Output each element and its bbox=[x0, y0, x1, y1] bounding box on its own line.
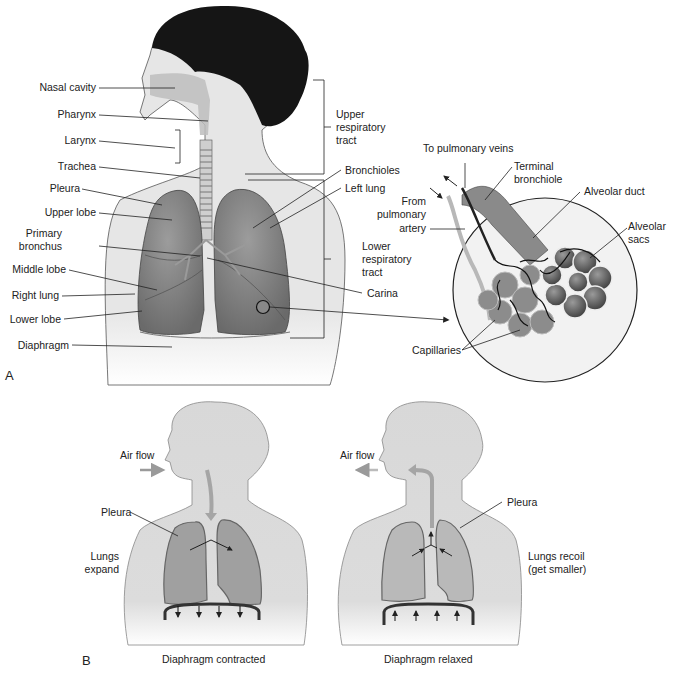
label-lower-tract-2: respiratory bbox=[362, 253, 412, 266]
label-bronchiole: bronchiole bbox=[514, 173, 562, 186]
label-lungs-recoil: Lungs recoil bbox=[528, 550, 585, 563]
label-bronchus: bronchus bbox=[19, 240, 62, 253]
label-carina: Carina bbox=[367, 287, 398, 300]
label-lower-tract-1: Lower bbox=[362, 240, 391, 253]
caption-diaphragm-relaxed: Diaphragm relaxed bbox=[384, 653, 473, 666]
label-capillaries: Capillaries bbox=[412, 344, 461, 357]
label-pleura: Pleura bbox=[50, 182, 80, 195]
alveoli-inset bbox=[430, 176, 637, 382]
label-middle-lobe: Middle lobe bbox=[12, 263, 66, 276]
magnified-region-marker bbox=[257, 301, 270, 314]
label-larynx: Larynx bbox=[64, 134, 96, 147]
label-get-smaller: (get smaller) bbox=[528, 563, 586, 576]
caption-diaphragm-contracted: Diaphragm contracted bbox=[162, 653, 265, 666]
label-airflow-out: Air flow bbox=[340, 449, 374, 462]
label-lungs: Lungs bbox=[90, 550, 119, 563]
label-lower-lobe: Lower lobe bbox=[10, 313, 61, 326]
label-pharynx: Pharynx bbox=[57, 108, 96, 121]
trachea bbox=[200, 140, 212, 240]
figure-b-right bbox=[338, 402, 521, 645]
label-to-pulmonary-veins: To pulmonary veins bbox=[423, 142, 513, 155]
label-alveolar-duct: Alveolar duct bbox=[584, 185, 645, 198]
label-upper-tract-1: Upper bbox=[336, 108, 365, 121]
label-lower-tract-3: tract bbox=[362, 266, 382, 279]
label-trachea: Trachea bbox=[58, 160, 96, 173]
label-airflow-in: Air flow bbox=[120, 449, 154, 462]
label-pleura-b-right: Pleura bbox=[507, 496, 537, 509]
label-from: From bbox=[402, 195, 427, 208]
label-upper-tract-2: respiratory bbox=[336, 121, 386, 134]
figure-b-left bbox=[124, 402, 307, 645]
label-bronchioles: Bronchioles bbox=[345, 164, 400, 177]
label-artery: artery bbox=[399, 222, 426, 235]
panel-letter-a: A bbox=[5, 368, 14, 383]
label-diaphragm: Diaphragm bbox=[18, 339, 69, 352]
panel-letter-b: B bbox=[82, 653, 91, 668]
label-pleura-b-left: Pleura bbox=[101, 506, 131, 519]
label-upper-lobe: Upper lobe bbox=[45, 206, 96, 219]
label-expand: expand bbox=[85, 563, 119, 576]
label-left-lung: Left lung bbox=[345, 182, 385, 195]
label-pulmonary: pulmonary bbox=[377, 208, 426, 221]
label-upper-tract-3: tract bbox=[336, 134, 356, 147]
label-terminal: Terminal bbox=[514, 160, 554, 173]
label-alveolar: Alveolar bbox=[628, 220, 666, 233]
label-right-lung: Right lung bbox=[12, 289, 59, 302]
label-sacs: sacs bbox=[628, 233, 650, 246]
label-primary: Primary bbox=[26, 227, 62, 240]
label-nasal-cavity: Nasal cavity bbox=[39, 81, 96, 94]
